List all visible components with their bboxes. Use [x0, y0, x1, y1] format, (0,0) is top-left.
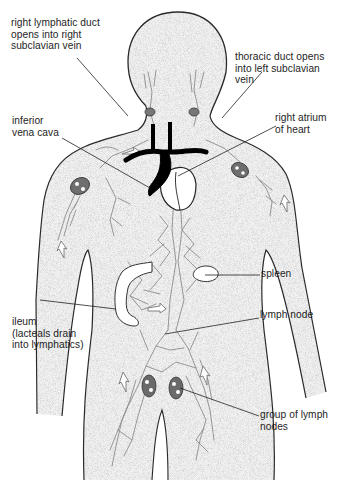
label-line: spleen	[261, 268, 291, 279]
label-line: thoracic duct opens	[235, 51, 324, 62]
spleen	[193, 266, 218, 282]
label-group-of-lymph-nodes: group of lymph nodes	[260, 409, 328, 432]
label-spleen: spleen	[261, 268, 291, 280]
label-line: vena cava	[12, 127, 59, 138]
label-right-atrium: right atrium of heart	[275, 112, 327, 135]
label-line: nodes	[260, 421, 288, 432]
label-thoracic-duct: thoracic duct opens into left subclavian…	[235, 51, 324, 86]
label-line: ileum	[12, 316, 37, 327]
label-line: vein	[235, 74, 254, 85]
label-right-lymphatic-duct: right lymphatic duct opens into right su…	[11, 17, 100, 52]
lymphatic-system-diagram: right lymphatic duct opens into right su…	[0, 0, 349, 480]
label-line: lymph node	[260, 309, 313, 320]
label-line: opens into right	[11, 29, 81, 40]
label-lymph-node: lymph node	[260, 309, 313, 321]
label-ileum: ileum (lacteals drain into lymphatics)	[12, 316, 84, 351]
label-line: subclavian vein	[11, 40, 81, 51]
label-line: (lacteals drain	[12, 328, 76, 339]
label-line: of heart	[275, 124, 310, 135]
label-inferior-vena-cava: inferior vena cava	[12, 115, 59, 138]
leader-right-lymphatic-duct	[77, 58, 128, 116]
label-line: group of lymph	[260, 409, 328, 420]
label-line: into left subclavian	[235, 63, 320, 74]
label-line: right lymphatic duct	[11, 17, 100, 28]
inguinal-node-right	[142, 375, 156, 397]
label-line: right atrium	[275, 112, 327, 123]
label-line: inferior	[12, 115, 44, 126]
label-line: into lymphatics)	[12, 339, 84, 350]
